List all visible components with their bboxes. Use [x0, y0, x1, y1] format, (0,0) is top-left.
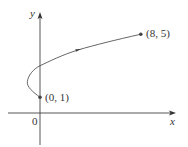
end-point	[139, 32, 143, 36]
end-point-label: (8, 5)	[146, 27, 170, 40]
start-point	[38, 95, 42, 99]
y-axis	[38, 12, 43, 145]
parametric-curve	[27, 34, 140, 97]
origin-label: 0	[32, 115, 38, 127]
x-axis-label: x	[169, 115, 175, 127]
start-point-label: (0, 1)	[45, 91, 69, 104]
parametric-curve-diagram: y x 0 (0, 1) (8, 5)	[0, 0, 188, 147]
y-axis-label: y	[29, 7, 35, 19]
